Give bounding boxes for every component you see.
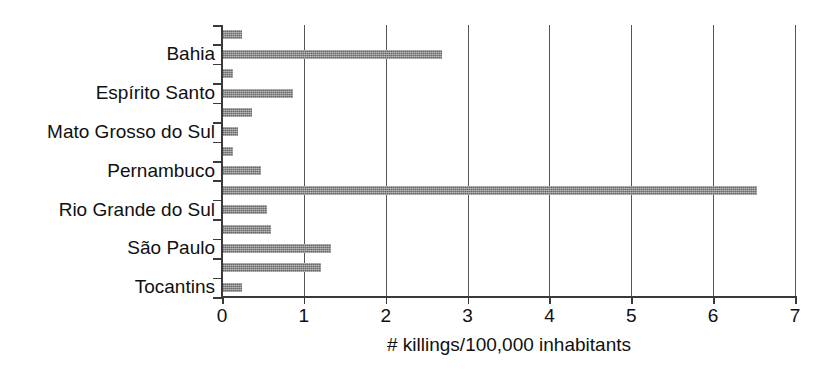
x-axis-tick-label-1: 1 [284,304,324,328]
x-axis-tick-label-5: 5 [611,304,651,328]
x-axis-tick-6 [713,296,715,304]
x-axis-tick-1 [304,296,306,304]
plot-area [222,25,795,297]
y-axis-category-label: Tocantins [3,276,215,298]
x-axis-tick-label-2: 2 [366,304,406,328]
bar [222,147,233,156]
bar [222,69,233,78]
gridline-x-5 [631,25,632,297]
bar-chart-figure: 01234567 BahiaEspírito SantoMato Grosso … [0,0,826,379]
gridline-x-2 [386,25,387,297]
bar [222,127,238,136]
bar [222,108,252,117]
bar [222,225,271,234]
gridline-x-6 [713,25,714,297]
y-axis-category-label: São Paulo [3,237,215,259]
y-axis-category-labels-group: BahiaEspírito SantoMato Grosso do SulPer… [0,0,215,379]
x-axis-line [222,296,796,298]
x-axis-tick-5 [631,296,633,304]
gridline-x-7 [795,25,796,297]
x-axis-tick-4 [549,296,551,304]
gridline-x-1 [304,25,305,297]
x-axis-title: # killings/100,000 inhabitants [222,333,796,357]
x-axis-tick-label-7: 7 [775,304,815,328]
bar [222,283,242,292]
bar [222,166,261,175]
x-axis-tick-3 [468,296,470,304]
y-axis-category-label: Pernambuco [3,160,215,182]
bar [222,263,321,272]
y-axis-category-label: Rio Grande do Sul [3,199,215,221]
x-axis-tick-label-3: 3 [448,304,488,328]
bar [222,244,331,253]
bar [222,30,242,39]
x-axis-tick-label-4: 4 [529,304,569,328]
bar [222,205,267,214]
bar [222,186,757,195]
x-axis-tick-0 [222,296,224,304]
y-axis-category-label: Bahia [3,43,215,65]
x-axis-tick-2 [386,296,388,304]
bar [222,89,293,98]
gridline-x-4 [549,25,550,297]
y-axis-category-label: Espírito Santo [3,82,215,104]
y-axis-line [221,25,223,297]
y-axis-category-label: Mato Grosso do Sul [3,121,215,143]
bar [222,50,442,59]
x-axis-tick-label-6: 6 [693,304,733,328]
gridline-x-3 [468,25,469,297]
x-axis-tick-7 [795,296,797,304]
